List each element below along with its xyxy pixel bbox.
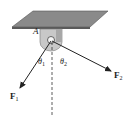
theta2-label: θ2 [60, 57, 67, 67]
force-diagram: A θ1 θ2 F1 F2 [0, 0, 130, 117]
pin-icon [48, 37, 55, 44]
point-a-label: A [32, 26, 39, 36]
ceiling-plate [12, 11, 108, 29]
theta1-label: θ1 [38, 57, 45, 67]
force-f2-label: F2 [114, 70, 123, 81]
bracket [40, 29, 62, 51]
force-f1-arrow [20, 41, 51, 88]
force-f2-arrow [52, 41, 111, 71]
force-f1-label: F1 [10, 91, 19, 102]
